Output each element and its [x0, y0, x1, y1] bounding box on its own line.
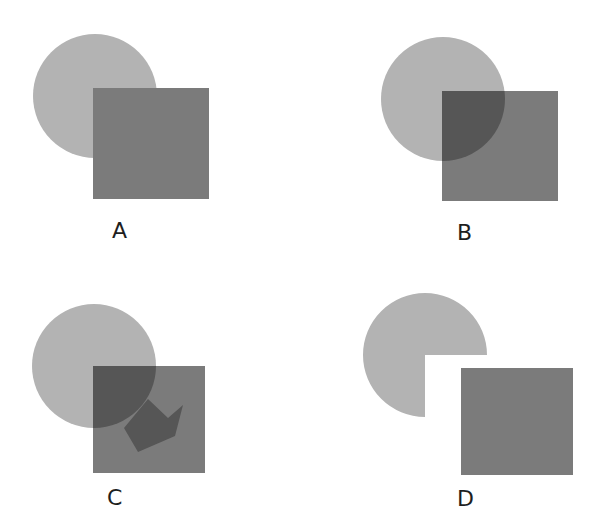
figure-canvas	[0, 0, 596, 524]
panel-b-label: B	[457, 222, 472, 244]
panel-c-label: C	[107, 487, 122, 509]
panel-d	[363, 293, 573, 475]
panel-a-label: A	[112, 220, 127, 242]
panel-c	[32, 304, 205, 473]
panel-d-label: D	[457, 488, 474, 510]
panel-d-square	[461, 368, 573, 475]
panel-a-square	[93, 88, 209, 199]
panel-a	[33, 34, 209, 199]
panel-b	[381, 37, 558, 201]
